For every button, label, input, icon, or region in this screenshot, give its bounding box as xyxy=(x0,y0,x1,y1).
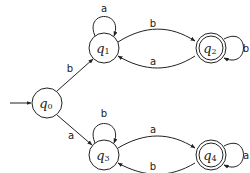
edge-label-q1-q2: b xyxy=(150,18,156,29)
edge-q2-loop xyxy=(224,36,244,60)
state-q2: q2 xyxy=(196,33,226,63)
edge-q4-q3 xyxy=(118,163,195,173)
edge-label-q3-loop: b xyxy=(101,108,107,119)
edge-label-q2-loop: b xyxy=(243,43,249,54)
state-q0: q0 xyxy=(32,88,62,118)
edge-q1-q2 xyxy=(118,29,195,42)
edge-label-q4-q3: b xyxy=(150,161,156,172)
edge-q4-loop xyxy=(224,143,244,167)
edge-label-q0-q1: b xyxy=(67,63,73,74)
edge-label-q3-q4: a xyxy=(150,124,156,135)
edge-label-q0-q3: a xyxy=(68,130,74,141)
edge-q0-q3 xyxy=(57,115,92,145)
edge-q2-q1 xyxy=(118,56,195,68)
edge-q0-q1 xyxy=(57,59,93,91)
edge-label-q4-loop: a xyxy=(243,150,249,161)
edge-q3-q4 xyxy=(118,136,195,148)
dfa-diagram: b a a b a b b a b a q0 q1 q2 q3 xyxy=(0,0,250,173)
state-q3: q3 xyxy=(89,140,119,170)
edge-label-q1-loop: a xyxy=(101,3,107,14)
state-q1: q1 xyxy=(89,33,119,63)
state-q4: q4 xyxy=(196,140,226,170)
edge-label-q2-q1: a xyxy=(150,56,156,67)
